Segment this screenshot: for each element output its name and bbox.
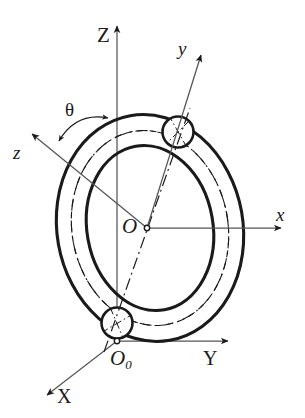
origin-label-O0: O0 (110, 348, 132, 369)
axis-label-global-x: X (57, 386, 71, 406)
torus-cross-section-top (162, 114, 194, 151)
torus-coordinate-diagram: Z Y X x y z θ O O0 (0, 0, 305, 418)
origin-label-O0-subscript: 0 (125, 357, 132, 372)
torus-cross-section-bottom (101, 307, 133, 340)
axis-label-global-z: Z (97, 25, 110, 46)
origin-label-O0-main: O (110, 346, 125, 370)
axis-label-body-z: z (13, 143, 20, 162)
origin-marker-O (144, 225, 149, 230)
origin-marker-O0 (114, 338, 119, 343)
diagram-canvas (0, 0, 305, 418)
axis-label-global-y: Y (203, 348, 217, 368)
theta-angle-label: θ (65, 100, 74, 119)
origin-label-O: O (122, 216, 137, 237)
axis-label-body-x: x (276, 205, 284, 224)
axis-label-body-y: y (178, 39, 186, 58)
